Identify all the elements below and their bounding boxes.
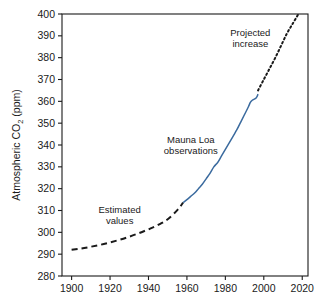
x-tick-label-2000: 2000	[252, 282, 276, 294]
y-axis-title-unit: (ppm)	[10, 89, 22, 119]
x-tick-label-1980: 1980	[214, 282, 238, 294]
chart-canvas: 280290300310320330340350360370380390400 …	[0, 0, 325, 308]
x-tick-label-1960: 1960	[175, 282, 199, 294]
x-tick-label-2020: 2020	[291, 282, 315, 294]
y-tick-label-320: 320	[37, 182, 55, 194]
annotation-projected-increase-line1: Projected	[230, 27, 270, 38]
x-axis-tick-labels: 1900192019401960198020002020	[60, 282, 314, 294]
y-axis-title: Atmospheric CO2 (ppm)	[10, 89, 25, 201]
x-tick-label-1900: 1900	[60, 282, 84, 294]
series-projected-increase	[258, 14, 298, 90]
x-tick-label-1920: 1920	[98, 282, 122, 294]
y-tick-label-310: 310	[37, 204, 55, 216]
y-tick-label-300: 300	[37, 226, 55, 238]
y-tick-label-400: 400	[37, 8, 55, 20]
annotation-mauna-loa-observations-line2: observations	[164, 145, 218, 156]
y-tick-label-380: 380	[37, 51, 55, 63]
y-tick-label-340: 340	[37, 139, 55, 151]
y-axis-tick-labels: 280290300310320330340350360370380390400	[37, 8, 55, 282]
svg-text:Atmospheric CO2 (ppm): Atmospheric CO2 (ppm)	[10, 89, 25, 201]
annotation-mauna-loa-observations: Mauna Loaobservations	[164, 134, 218, 156]
y-axis-title-main: Atmospheric CO	[10, 124, 22, 201]
y-tick-label-280: 280	[37, 270, 55, 282]
annotation-projected-increase: Projectedincrease	[230, 27, 270, 49]
y-tick-label-390: 390	[37, 29, 55, 41]
annotation-estimated-values: Estimatedvalues	[99, 204, 141, 226]
co2-chart-figure: 280290300310320330340350360370380390400 …	[0, 0, 325, 308]
y-tick-label-290: 290	[37, 248, 55, 260]
x-axis-ticks	[72, 276, 303, 280]
annotation-estimated-values-line2: values	[106, 215, 134, 226]
y-tick-label-350: 350	[37, 117, 55, 129]
x-tick-label-1940: 1940	[137, 282, 161, 294]
y-tick-label-330: 330	[37, 160, 55, 172]
chart-annotations: EstimatedvaluesMauna LoaobservationsProj…	[99, 27, 271, 226]
annotation-estimated-values-line1: Estimated	[99, 204, 141, 215]
y-tick-label-360: 360	[37, 95, 55, 107]
annotation-projected-increase-line2: increase	[232, 38, 268, 49]
y-axis-ticks	[58, 14, 62, 276]
annotation-mauna-loa-observations-line1: Mauna Loa	[167, 134, 215, 145]
y-tick-label-370: 370	[37, 73, 55, 85]
